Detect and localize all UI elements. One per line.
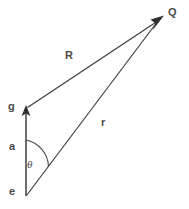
vector-label-R: R bbox=[65, 49, 73, 61]
vector-label-r: r bbox=[101, 116, 106, 128]
vector-diagram-canvas: e g Q a R r θ bbox=[0, 0, 189, 209]
angle-label-theta: θ bbox=[27, 158, 33, 170]
point-label-e: e bbox=[9, 185, 15, 197]
vector-R-line bbox=[28, 23, 156, 108]
vector-label-a: a bbox=[9, 140, 16, 152]
vector-r-line bbox=[27, 24, 157, 196]
vector-diagram-figure: e g Q a R r θ bbox=[0, 0, 189, 209]
point-label-g: g bbox=[8, 100, 15, 112]
point-label-Q: Q bbox=[168, 6, 177, 18]
